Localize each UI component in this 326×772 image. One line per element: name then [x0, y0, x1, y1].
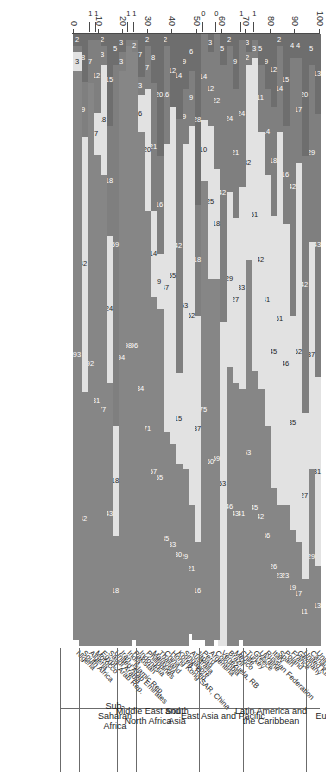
value-callout: 1 [94, 10, 98, 18]
bar-segment-value: 6 [138, 110, 142, 118]
bar-segment-value: 9 [81, 106, 85, 114]
bar-segment-value: 3 [252, 46, 256, 54]
bar-segment-value: 5 [113, 46, 117, 54]
bar-segment-value: 2 [277, 36, 281, 44]
bar-segment-value: 4 [290, 42, 294, 50]
value-callout: 1 [132, 10, 136, 18]
bar-segment[interactable]: 2 [73, 34, 82, 46]
axis-tick [73, 29, 74, 33]
bar-segment-value: 2 [144, 36, 148, 44]
value-callout: 1 [239, 10, 243, 18]
value-callout: 0 [214, 10, 218, 18]
bar-segment-value: 9 [233, 58, 237, 66]
value-leader-line [253, 22, 254, 32]
bar-segment-value: 9 [182, 113, 186, 121]
bar-segment[interactable]: 3 [73, 52, 82, 70]
bar-segment-value: 2 [163, 36, 167, 44]
axis-tick-label: 100 [315, 2, 324, 26]
bar-segment-value: 2 [245, 55, 249, 63]
value-callout: 1 [252, 10, 256, 18]
axis-tick [147, 29, 148, 33]
value-callout: 1 [88, 10, 92, 18]
value-leader-line [95, 22, 96, 32]
bar-segment-value: 3 [119, 39, 123, 47]
value-callout: 1 [126, 10, 130, 18]
axis-tick [122, 29, 123, 33]
axis-tick-label: 0 [69, 2, 78, 26]
value-leader-line [89, 22, 90, 32]
bar-segment-value: 9 [157, 278, 161, 286]
bar-segment-value: 3 [75, 58, 79, 66]
value-leader-line [133, 22, 134, 32]
bar-segment-value: 4 [296, 42, 300, 50]
bar-segment-value: 3 [245, 39, 249, 47]
bar-segment-value: 7 [144, 64, 148, 72]
bar-row: 2393 [73, 34, 82, 646]
bar-segment-value: 2 [75, 36, 79, 44]
bar-segment-value: 3 [138, 82, 142, 90]
axis-tick [319, 29, 320, 33]
stacked-bar[interactable]: 2393 [73, 34, 82, 646]
value-callout: 0 [201, 10, 205, 18]
region-label: Sub- Saharan Africa [70, 701, 160, 731]
bar-segment-value: 7 [88, 58, 92, 66]
bar-segment-value: 93 [73, 352, 81, 360]
bar-segment-value: 6 [189, 49, 193, 57]
bar-segment-value: 5 [220, 46, 224, 54]
bar-segment-value: 3 [100, 52, 104, 60]
stacked-bar-chart: Share of food retail sales (%) 134331135… [0, 0, 326, 772]
axis-tick [171, 29, 172, 33]
axis-tick-label: 80 [266, 2, 275, 26]
axis-tick [270, 29, 271, 33]
bar-segment-value: 3 [208, 39, 212, 47]
bar-segment-value: 9 [182, 58, 186, 66]
bar-segment-value: 8 [151, 55, 155, 63]
axis-tick [196, 29, 197, 33]
bar-segment-value: 2 [132, 42, 136, 50]
bar-segment-value: 8 [81, 54, 85, 62]
value-leader-line [202, 22, 203, 32]
plot-area: 1343311352937292042271141762174423519151… [74, 34, 320, 646]
axis-tick [221, 29, 222, 33]
bar-segment-value: 5 [258, 46, 262, 54]
bar-segment-value: 5 [308, 46, 312, 54]
value-leader-line [240, 22, 241, 32]
value-leader-line [215, 22, 216, 32]
axis-tick-label: 40 [167, 2, 176, 26]
axis-tick-label: 50 [192, 2, 201, 26]
bar-segment[interactable]: 93 [73, 71, 82, 640]
axis-tick-label: 30 [143, 2, 152, 26]
bar-segment-value: 7 [138, 52, 142, 60]
bar-segment-value: 3 [119, 58, 123, 66]
axis-tick [294, 29, 295, 33]
bar-segment-value: 9 [264, 58, 268, 66]
axis-tick-label: 90 [290, 2, 299, 26]
bar-segment-value: 2 [226, 36, 230, 44]
region-separator [60, 648, 61, 772]
axis-tick [245, 29, 246, 33]
bar-segment-value: 9 [189, 95, 193, 103]
rotated-chart-wrapper: Share of food retail sales (%) 134331135… [0, 0, 326, 772]
bar-segment-value: 7 [94, 130, 98, 138]
value-leader-line [127, 22, 128, 32]
bar-segment-value: 2 [100, 36, 104, 44]
axis-tick [98, 29, 99, 33]
